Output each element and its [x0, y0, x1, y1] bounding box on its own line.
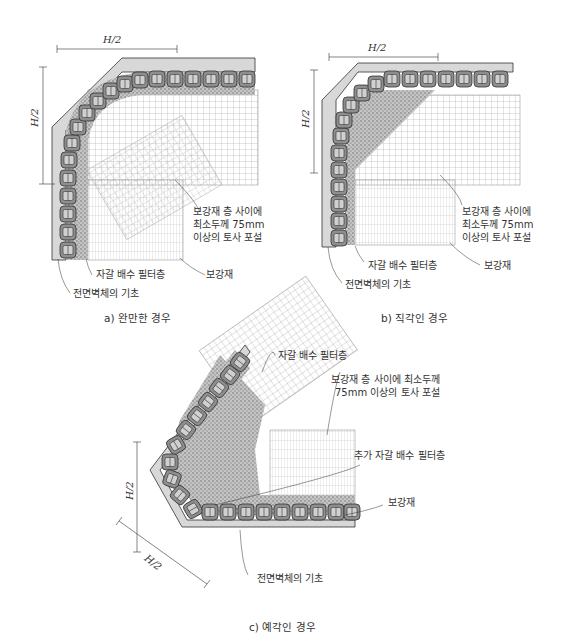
diagram-canvas [0, 0, 577, 643]
fig-b-dim-vertical: H/2 [300, 109, 311, 127]
fig-c-extra-filter-label: 추가 자갈 배수 필터층 [354, 449, 445, 462]
fig-a-soil-fill-label: 보강재 층 사이에 최소두께 75mm 이상의 토사 포설 [193, 205, 264, 244]
fig-b-foundation-label: 전면벽체의 기초 [345, 278, 411, 291]
fig-c-caption: c) 예각인 경우 [249, 619, 316, 634]
fig-c-foundation-label: 전면벽체의 기초 [257, 572, 323, 585]
fig-a-foundation-label: 전면벽체의 기초 [73, 287, 139, 300]
figure-b [310, 53, 520, 283]
fig-b-gravel-filter-label: 자갈 배수 필터층 [368, 259, 437, 272]
fig-c-gravel-filter-label: 자갈 배수 필터층 [278, 349, 347, 362]
figure-a [39, 45, 258, 293]
fig-a-gravel-filter-label: 자갈 배수 필터층 [96, 268, 165, 281]
fig-c-dim-vertical: H/2 [124, 481, 135, 499]
fig-b-reinforcement-label: 보강재 [484, 259, 511, 272]
fig-b-caption: b) 직각인 경우 [381, 310, 448, 325]
fig-a-caption: a) 완만한 경우 [104, 310, 171, 325]
fig-a-reinforcement-label: 보강재 [206, 268, 233, 281]
fig-c-reinforcement-label: 보강재 [388, 496, 415, 509]
fig-a-dim-horizontal: H/2 [103, 34, 121, 45]
fig-b-dim-horizontal: H/2 [368, 42, 386, 53]
fig-c-soil-fill-label: 보강재 층 사이에 최소두께 75mm 이상의 토사 포설 [323, 373, 440, 399]
fig-a-dim-vertical: H/2 [29, 108, 40, 126]
fig-b-soil-fill-label: 보강재 층 사이에 최소두께 75mm 이상의 토사 포설 [462, 205, 533, 244]
